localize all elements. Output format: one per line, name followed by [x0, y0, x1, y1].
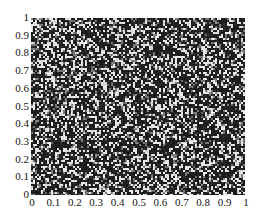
y-tick-label: 0.3 — [15, 136, 29, 147]
x-tick-label: 0.2 — [68, 197, 82, 208]
x-tick-label: 0.1 — [47, 197, 61, 208]
x-tick-label: 0.5 — [132, 197, 146, 208]
y-tick-label: 0.8 — [15, 47, 29, 58]
noise-heatmap-canvas — [31, 18, 245, 195]
y-tick-label: 0.1 — [15, 171, 29, 182]
y-tick-label: 0.9 — [15, 30, 29, 41]
y-tick-label: 1 — [24, 12, 30, 23]
x-tick-label: 0.6 — [154, 197, 168, 208]
x-tick-label: 0.4 — [111, 197, 125, 208]
y-tick-label: 0.7 — [15, 65, 29, 76]
y-tick-label: 0.4 — [15, 118, 29, 129]
x-tick-label: 0 — [29, 197, 35, 208]
x-tick-label: 1 — [243, 197, 249, 208]
noise-heatmap-plot-area — [31, 18, 245, 195]
x-tick-label: 0.8 — [196, 197, 210, 208]
x-tick-label: 0.3 — [89, 197, 103, 208]
y-tick-label: 0 — [24, 189, 30, 200]
y-tick-label: 0.6 — [15, 83, 29, 94]
x-tick-label: 0.9 — [218, 197, 232, 208]
x-tick-label: 0.7 — [175, 197, 189, 208]
y-tick-label: 0.2 — [15, 154, 29, 165]
y-tick-label: 0.5 — [15, 101, 29, 112]
